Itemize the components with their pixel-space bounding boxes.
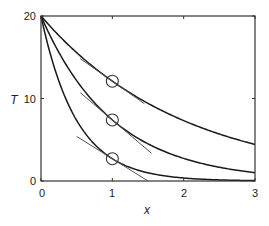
- y-axis-label: T: [10, 93, 19, 107]
- decay-curve-1: [41, 16, 255, 144]
- y-tick-20: 20: [24, 10, 36, 22]
- tangent-lines: [77, 59, 152, 181]
- x-tick-0: 0: [39, 187, 45, 199]
- x-tick-3: 3: [252, 187, 258, 199]
- x-tick-1: 1: [109, 187, 115, 199]
- decay-curve-3: [41, 16, 255, 181]
- tangent-line-3: [77, 136, 148, 181]
- decay-curves: [41, 16, 255, 181]
- decay-curve-2: [41, 16, 255, 173]
- plot-frame: [41, 16, 255, 181]
- axis-ticks: [41, 16, 255, 181]
- x-axis-label: x: [143, 203, 151, 217]
- x-tick-2: 2: [181, 187, 187, 199]
- y-tick-10: 10: [24, 93, 36, 105]
- chart: 20 10 0 0 1 2 3 x T: [0, 0, 269, 226]
- y-tick-0: 0: [30, 175, 36, 187]
